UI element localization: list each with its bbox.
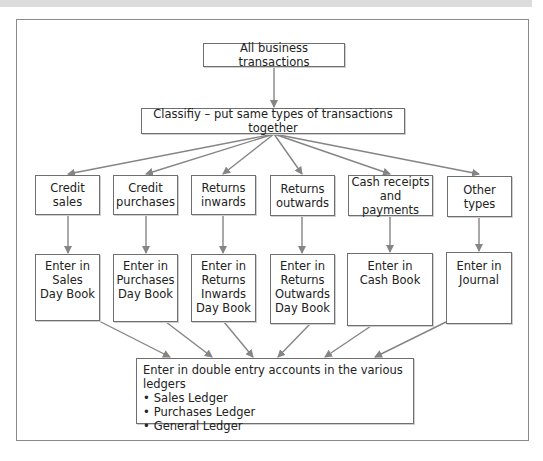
root-box: All business transactions	[203, 43, 345, 67]
ledger-item-sales: Sales Ledger	[143, 391, 407, 405]
category-returns-inwards: Returns inwards	[191, 175, 256, 215]
category-credit-purchases: Credit purchases	[113, 175, 178, 215]
category-label: Credit purchases	[115, 181, 177, 209]
category-returns-outwards: Returns outwards	[270, 175, 335, 216]
book-purchases-day-book: Enter in Purchases Day Book	[113, 254, 178, 322]
ledger-heading: Enter in double entry accounts in the va…	[143, 363, 407, 391]
classify-label: Classifiy – put same types of transactio…	[142, 107, 404, 135]
category-label: Other types	[460, 183, 500, 211]
book-label: Enter in Purchases Day Book	[115, 259, 177, 301]
category-label: Returns outwards	[273, 182, 333, 210]
classify-box: Classifiy – put same types of transactio…	[141, 108, 405, 134]
ledger-box: Enter in double entry accounts in the va…	[136, 358, 414, 424]
root-label: All business transactions	[204, 41, 344, 69]
book-returns-outwards-day-book: Enter in Returns Outwards Day Book	[270, 254, 335, 324]
ledger-item-general: General Ledger	[143, 419, 407, 433]
ledger-item-purchases: Purchases Ledger	[143, 405, 407, 419]
book-journal: Enter in Journal	[446, 252, 512, 324]
ledger-list: Sales Ledger Purchases Ledger General Le…	[143, 391, 407, 433]
book-label: Enter in Returns Outwards Day Book	[273, 259, 333, 315]
book-sales-day-book: Enter in Sales Day Book	[35, 254, 100, 321]
book-label: Enter in Journal	[451, 259, 507, 287]
category-credit-sales: Credit sales	[35, 175, 100, 215]
book-label: Enter in Cash Book	[359, 259, 421, 287]
category-label: Returns inwards	[196, 181, 252, 209]
category-label: Credit sales	[43, 181, 93, 209]
category-label: Cash receipts and payments	[350, 175, 432, 217]
category-other: Other types	[447, 176, 512, 217]
book-label: Enter in Returns Inwards Day Book	[196, 259, 252, 315]
book-label: Enter in Sales Day Book	[40, 259, 96, 301]
category-cash: Cash receipts and payments	[348, 175, 433, 216]
book-cash-book: Enter in Cash Book	[347, 253, 433, 326]
book-returns-inwards-day-book: Enter in Returns Inwards Day Book	[191, 254, 256, 322]
